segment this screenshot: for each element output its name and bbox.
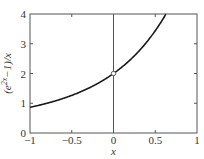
y-tick-label: 0: [21, 127, 27, 139]
tick-labels: −1−0.500.5101234: [21, 8, 200, 146]
function-curve: [30, 14, 166, 107]
y-tick-label: 4: [21, 8, 27, 20]
y-axis-label-prefix: (e: [1, 85, 14, 94]
open-circle-marker: [111, 71, 115, 75]
x-tick-label: −0.5: [62, 134, 82, 146]
y-tick-label: 2: [21, 68, 27, 80]
y-axis-label-suffix: −1)/x: [1, 53, 14, 78]
x-tick-label: 1: [194, 134, 200, 146]
y-axis-label: (e2x−1)/x: [0, 53, 14, 94]
x-tick-label: 0.5: [148, 134, 162, 146]
y-tick-label: 3: [21, 38, 27, 50]
chart: −1−0.500.5101234 x (e2x−1)/x: [0, 0, 204, 159]
x-axis-label: x: [110, 145, 116, 157]
y-tick-label: 1: [21, 97, 27, 109]
